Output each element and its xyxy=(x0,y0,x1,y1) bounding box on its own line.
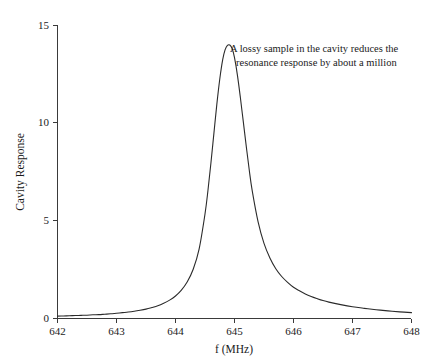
y-tick-label-10: 10 xyxy=(38,116,50,128)
x-tick-label-644: 644 xyxy=(167,325,184,337)
chart-figure: 0 5 10 15 642 643 644 645 646 647 648 f … xyxy=(0,0,433,363)
chart-annotation: A lossy sample in the cavity reduces the… xyxy=(230,43,399,68)
x-tick-label-643: 643 xyxy=(108,325,125,337)
y-axis-tick-labels: 0 5 10 15 xyxy=(38,19,50,324)
y-tick-label-0: 0 xyxy=(44,312,50,324)
x-axis-ticks xyxy=(58,319,412,324)
x-tick-label-647: 647 xyxy=(344,325,361,337)
resonance-curve xyxy=(58,45,412,316)
annotation-line-1: A lossy sample in the cavity reduces the xyxy=(230,43,399,54)
y-axis-title: Cavity Response xyxy=(14,133,27,211)
x-axis-title: f (MHz) xyxy=(215,343,253,356)
y-axis-ticks xyxy=(53,26,58,319)
x-tick-label-648: 648 xyxy=(403,325,420,337)
x-tick-label-642: 642 xyxy=(49,325,66,337)
x-tick-label-645: 645 xyxy=(226,325,243,337)
annotation-line-2: resonance response by about a million xyxy=(236,57,397,68)
x-tick-label-646: 646 xyxy=(285,325,302,337)
cavity-response-chart: 0 5 10 15 642 643 644 645 646 647 648 f … xyxy=(0,0,433,363)
x-axis-tick-labels: 642 643 644 645 646 647 648 xyxy=(49,325,420,337)
y-tick-label-15: 15 xyxy=(38,19,50,31)
y-tick-label-5: 5 xyxy=(44,214,50,226)
